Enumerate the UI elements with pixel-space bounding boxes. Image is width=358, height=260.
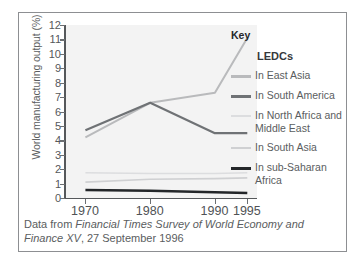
series-line <box>85 103 247 133</box>
legend-swatch-container <box>231 69 255 78</box>
y-axis-tick-label: 3 <box>41 149 61 160</box>
legend-entry-label: In North Africa and Middle East <box>255 109 348 134</box>
legend-color-swatch-icon <box>231 75 251 78</box>
legend-color-swatch-icon <box>231 95 251 98</box>
legend-swatch-container <box>231 89 255 98</box>
y-axis-tick-mark <box>60 25 65 26</box>
y-axis-tick-mark <box>60 54 65 55</box>
y-axis-tick-mark <box>60 184 65 185</box>
y-axis-tick-mark <box>60 169 65 170</box>
y-axis-tick-label: 10 <box>41 48 61 59</box>
plot-canvas <box>66 25 257 198</box>
x-axis-tick-label: 1990 <box>201 204 229 218</box>
x-axis-line <box>64 198 257 200</box>
series-line <box>85 173 247 174</box>
legend-swatch-container <box>231 161 255 170</box>
y-axis-tick-mark <box>60 39 65 40</box>
x-axis-tick-label: 1970 <box>71 204 99 218</box>
legend-swatch-container <box>231 141 255 149</box>
source-caption: Data from Financial Times Survey of Worl… <box>24 218 344 245</box>
series-line <box>85 178 247 182</box>
legend-entry-label: In South Asia <box>255 141 348 154</box>
y-axis-tick-label: 12 <box>41 20 61 31</box>
series-line <box>85 38 247 137</box>
y-axis-tick-label: 8 <box>41 77 61 88</box>
legend-entry-list: In East AsiaIn South AmericaIn North Afr… <box>231 69 348 186</box>
legend-entry: In South Asia <box>231 141 348 154</box>
caption-suffix: , 27 September 1996 <box>81 232 184 244</box>
legend-color-swatch-icon <box>231 115 251 117</box>
legend-entry-label: In East Asia <box>255 69 348 82</box>
y-axis-tick-label: 9 <box>41 63 61 74</box>
legend-entry-label: In sub-Saharan Africa <box>255 161 348 186</box>
legend-color-swatch-icon <box>231 147 251 149</box>
legend-entry-label: In South America <box>255 89 348 102</box>
chart-legend: Key LEDCs In East AsiaIn South AmericaIn… <box>231 29 348 186</box>
x-axis-tick-label: 1995 <box>233 204 261 218</box>
y-axis-tick-mark <box>60 97 65 98</box>
series-lines <box>66 25 257 198</box>
legend-color-swatch-icon <box>231 167 251 170</box>
legend-title: Key <box>231 29 348 41</box>
y-axis-tick-mark <box>60 140 65 141</box>
y-axis-tick-label: 6 <box>41 106 61 117</box>
y-axis-tick-label: 1 <box>41 178 61 189</box>
y-axis-tick-mark <box>60 155 65 156</box>
legend-entry: In South America <box>231 89 348 102</box>
y-axis-tick-mark <box>60 112 65 113</box>
series-line <box>85 190 247 193</box>
legend-group-label: LEDCs <box>257 50 348 62</box>
y-axis-tick-label: 4 <box>41 135 61 146</box>
legend-swatch-container <box>231 109 255 117</box>
chart-figure: World manufacturing output (%) 121110987… <box>18 12 347 252</box>
y-axis-tick-label: 7 <box>41 92 61 103</box>
y-axis-tick-mark <box>60 83 65 84</box>
caption-prefix: Data from <box>24 218 75 230</box>
y-axis-tick-label: 5 <box>41 120 61 131</box>
legend-entry: In sub-Saharan Africa <box>231 161 348 186</box>
y-axis-tick-label: 0 <box>41 193 61 204</box>
legend-entry: In North Africa and Middle East <box>231 109 348 134</box>
y-axis-tick-label: 11 <box>41 34 61 45</box>
y-axis-tick-labels: 1211109876543210 <box>41 13 61 186</box>
y-axis-tick-mark <box>60 126 65 127</box>
legend-entry: In East Asia <box>231 69 348 82</box>
y-axis-tick-mark <box>60 68 65 69</box>
x-axis-tick-label: 1980 <box>136 204 164 218</box>
y-axis-tick-label: 2 <box>41 164 61 175</box>
y-axis-tick-mark <box>60 198 65 199</box>
